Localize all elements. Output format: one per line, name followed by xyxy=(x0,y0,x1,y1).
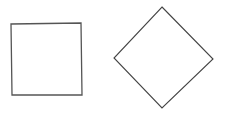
square-shape xyxy=(11,23,82,95)
diagram-canvas xyxy=(0,0,225,113)
diamond-shape xyxy=(114,7,213,108)
